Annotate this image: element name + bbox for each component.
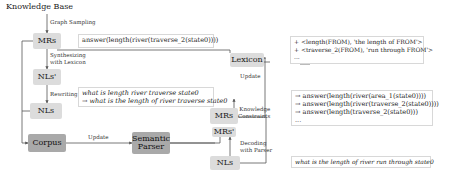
corpus-node: Corpus xyxy=(28,134,66,152)
rewriting-label: Rewriting xyxy=(50,91,78,98)
candidate-item: → answer(length(river(area_1(state0)))) xyxy=(295,92,429,100)
nls-node: NLs xyxy=(30,103,62,119)
synthesizing-label: Synthesizing with Lexicon xyxy=(50,52,86,65)
rewrite-example-box: what is length river traverse state0 → w… xyxy=(78,87,214,107)
nl-query-box: what is the length of river run through … xyxy=(291,156,431,168)
knowledge-constraints-label: Knowledge Constraints xyxy=(238,106,270,119)
update-corpus-label: Update xyxy=(88,134,108,141)
semantic-parser-node: Semantic Parser xyxy=(132,132,170,154)
mr-example-box: answer(length(river(traverse_2(state0)))… xyxy=(78,34,214,48)
graph-sampling-label: Graph Sampling xyxy=(50,19,95,26)
update-lexicon-label: Update xyxy=(240,73,260,80)
decoding-label: Decoding with Parser xyxy=(240,140,272,153)
knowledge-base-title: Knowledge Base xyxy=(6,2,73,11)
connector-lines xyxy=(0,0,454,176)
candidate-item: → answer(length(river(traverse_2(state0)… xyxy=(295,100,429,108)
candidate-item: → answer(length(traverse_2(state0))) xyxy=(295,108,429,116)
nls-right-node: NLs xyxy=(210,156,240,170)
lexicon-node: Lexicon xyxy=(230,53,264,67)
mr-candidates-box: → answer(length(river(area_1(state0)))) … xyxy=(291,90,433,126)
mrs-right-node: MRs xyxy=(210,108,238,124)
nls-prime-node: NLs' xyxy=(33,69,61,85)
lexicon-entries-box: + <length(FROM), 'the length of FROM'> +… xyxy=(290,36,424,64)
candidate-item: ... xyxy=(295,116,429,124)
mrs-node: MRs xyxy=(33,33,61,49)
mrs-prime-node: MRs' xyxy=(212,127,236,137)
